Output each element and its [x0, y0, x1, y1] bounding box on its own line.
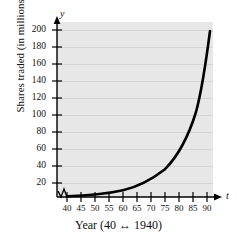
ytick-label-20: 20 — [18, 177, 46, 187]
data-curve-shares-traded — [67, 31, 210, 196]
x-axis-title: Year (40 ↔ 1940) — [0, 218, 237, 233]
y-axis-name: y — [60, 8, 64, 19]
x-axis-arrow — [214, 194, 222, 201]
xtick-label-90: 90 — [197, 203, 217, 213]
ytick-label-60: 60 — [18, 143, 46, 153]
x-axis-name: t — [226, 190, 229, 201]
y-axis-title: Shares traded (in millions) — [14, 0, 26, 134]
chart-figure: y t 200 180 160 140 120 100 80 60 40 20 … — [0, 0, 237, 245]
axis-break-zigzag — [58, 189, 67, 197]
ytick-label-40: 40 — [18, 160, 46, 170]
